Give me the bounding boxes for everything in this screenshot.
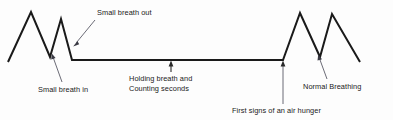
leader-holding-breath <box>169 61 174 73</box>
leader-first-signs <box>281 61 286 105</box>
leader-small-breath-in <box>51 53 62 82</box>
leader-normal-breathing <box>318 55 328 79</box>
breathing-diagram: Small breath out Small breath in Holding… <box>0 0 393 120</box>
label-first-signs-of-an-air-hunger: First signs of an air hunger <box>232 106 321 115</box>
label-small-breath-in: Small breath in <box>38 85 88 94</box>
diagram-canvas <box>0 0 393 120</box>
breathing-waveform <box>8 12 360 62</box>
label-small-breath-out: Small breath out <box>97 8 152 17</box>
label-normal-breathing: Normal Breathing <box>303 82 361 91</box>
leader-small-breath-out <box>73 20 95 47</box>
label-holding-breath-line1: Holding breath and <box>129 74 192 83</box>
label-holding-breath-line2: Counting seconds <box>129 84 189 93</box>
